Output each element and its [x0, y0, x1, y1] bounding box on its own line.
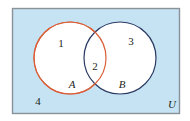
- region-label-2: 2: [92, 60, 98, 72]
- region-label-4: 4: [35, 95, 41, 107]
- universal-set-label: U: [168, 98, 177, 110]
- venn-diagram-canvas: 1 2 3 4 A B U: [0, 0, 190, 121]
- set-b-label: B: [119, 78, 126, 90]
- set-a-label: A: [68, 78, 76, 90]
- region-label-3: 3: [128, 35, 134, 47]
- region-label-1: 1: [58, 37, 64, 49]
- venn-diagram-figure: 1 2 3 4 A B U: [0, 0, 190, 121]
